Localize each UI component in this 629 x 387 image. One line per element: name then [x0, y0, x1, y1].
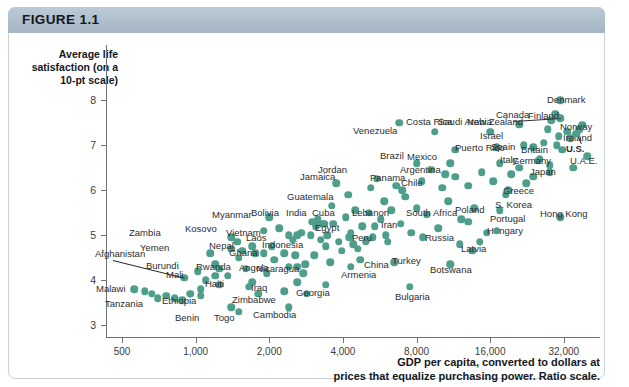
data-point	[141, 288, 149, 296]
data-point-label: Rwanda	[196, 262, 231, 272]
data-point-label: Guatemala	[287, 192, 333, 202]
data-point	[553, 141, 561, 149]
data-point	[555, 132, 563, 140]
data-point	[573, 130, 581, 138]
data-point	[431, 128, 439, 136]
data-point-label: Kosovo	[185, 224, 217, 234]
x-tick-label: 1,000	[166, 346, 226, 357]
y-tick	[101, 235, 107, 236]
x-axis-title: GDP per capita, converted to dollars at …	[250, 355, 600, 383]
x-axis-title-line1: GDP per capita, converted to dollars at	[397, 356, 600, 368]
data-point-label: Canada	[496, 110, 529, 120]
data-point	[356, 256, 364, 264]
data-point-label: Poland	[455, 205, 485, 215]
data-point	[384, 238, 392, 246]
y-tick	[101, 190, 107, 191]
data-point-label: Brazil	[380, 151, 404, 161]
x-tick	[490, 337, 491, 343]
data-point	[397, 220, 405, 228]
data-point-label: Chile	[401, 178, 423, 188]
data-point	[299, 270, 307, 278]
x-axis-line	[106, 337, 600, 338]
data-point-label: Greece	[503, 186, 534, 196]
data-point	[380, 198, 388, 206]
x-tick	[343, 337, 344, 343]
x-tick	[269, 337, 270, 343]
data-point	[382, 231, 390, 239]
data-point-label: Jordan	[318, 165, 347, 175]
data-point-label: Mali	[166, 270, 183, 280]
x-tick	[417, 337, 418, 343]
y-tick-label: 4	[80, 274, 96, 286]
x-tick	[122, 337, 123, 343]
data-point-label: Lebanon	[352, 208, 389, 218]
data-point	[154, 294, 162, 302]
data-point	[224, 272, 232, 280]
data-point-label: Finland	[528, 111, 559, 121]
data-point-label: Bolivia	[251, 208, 279, 218]
data-point	[434, 225, 442, 233]
data-point	[310, 252, 318, 260]
x-tick	[564, 337, 565, 343]
y-tick	[101, 325, 107, 326]
data-point-label: Nicaragua	[256, 264, 299, 274]
x-tick-label: 500	[92, 346, 152, 357]
data-point-label: Iran	[381, 220, 397, 230]
data-point-label: Bulgaria	[395, 292, 430, 302]
data-point-label: Georgia	[296, 288, 330, 298]
data-point	[354, 245, 362, 253]
data-point	[478, 168, 486, 176]
data-point	[338, 247, 346, 255]
data-point	[301, 261, 309, 269]
data-point	[285, 231, 293, 239]
x-axis-title-line2: prices that equalize purchasing power. R…	[333, 370, 600, 382]
y-tick-label: 8	[80, 94, 96, 106]
data-point	[407, 229, 415, 237]
data-point-label: Cuba	[312, 208, 335, 218]
data-point	[342, 213, 350, 221]
data-point	[280, 288, 288, 296]
data-point	[344, 191, 352, 199]
data-point	[367, 184, 375, 192]
data-point-label: Tanzania	[105, 299, 143, 309]
data-point-label: Haiti	[205, 279, 224, 289]
data-point	[447, 159, 455, 167]
data-point-label: Israel	[480, 131, 503, 141]
data-point-label: Togo	[214, 313, 235, 323]
data-point-label: Germany	[512, 156, 551, 166]
data-point	[493, 227, 501, 235]
data-point-label: Botswana	[430, 265, 472, 275]
data-point	[293, 279, 301, 287]
data-point-label: Hong Kong	[540, 209, 588, 219]
data-point	[406, 283, 414, 291]
data-point	[544, 126, 552, 134]
data-point-label: Venezuela	[353, 126, 397, 136]
data-point-label: India	[286, 208, 307, 218]
data-point-label: Ghana	[229, 248, 258, 258]
y-tick-label: 6	[80, 184, 96, 196]
data-point	[445, 198, 453, 206]
data-point	[335, 238, 343, 246]
data-point	[490, 177, 498, 185]
data-point-label: Mexico	[407, 152, 437, 162]
data-point	[293, 231, 301, 239]
data-point-label: Zambia	[129, 228, 161, 238]
data-point	[276, 225, 284, 233]
data-point	[359, 222, 367, 230]
data-point-label: Turkey	[392, 256, 421, 266]
data-point-label: Malawi	[96, 284, 126, 294]
data-point	[130, 285, 138, 293]
data-point-label: Argentina	[400, 165, 441, 175]
data-point	[307, 231, 315, 239]
data-point	[322, 243, 330, 251]
data-point	[464, 218, 472, 226]
data-point	[402, 193, 410, 201]
data-point	[451, 173, 459, 181]
data-point-label: Russia	[425, 233, 454, 243]
data-point-label: Japan	[530, 167, 556, 177]
y-tick	[101, 145, 107, 146]
x-tick	[196, 337, 197, 343]
data-point	[371, 222, 379, 230]
data-point-label: Afghanistan	[95, 249, 145, 259]
data-point	[235, 308, 243, 316]
